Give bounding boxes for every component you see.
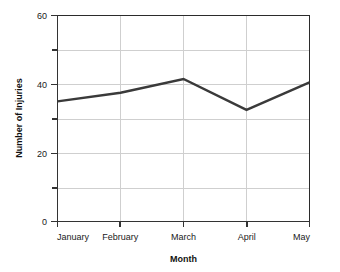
y-tick-label-60: 60 [37,11,47,21]
x-axis-ticks [58,222,310,227]
x-axis-title: Month [170,254,197,264]
x-tick-label-january: January [57,232,90,242]
x-tick-label-april: April [238,232,256,242]
line-chart: 60 40 20 0 January February March April … [0,0,340,272]
y-tick-label-20: 20 [37,149,47,159]
x-tick-label-may: May [293,232,311,242]
x-tick-label-february: February [102,232,139,242]
x-tick-label-march: March [171,232,196,242]
y-tick-label-40: 40 [37,80,47,90]
y-tick-label-0: 0 [42,217,47,227]
y-axis-title: Number of Injuries [14,78,24,158]
y-axis-ticks [51,16,57,222]
chart-page: 60 40 20 0 January February March April … [0,0,340,272]
